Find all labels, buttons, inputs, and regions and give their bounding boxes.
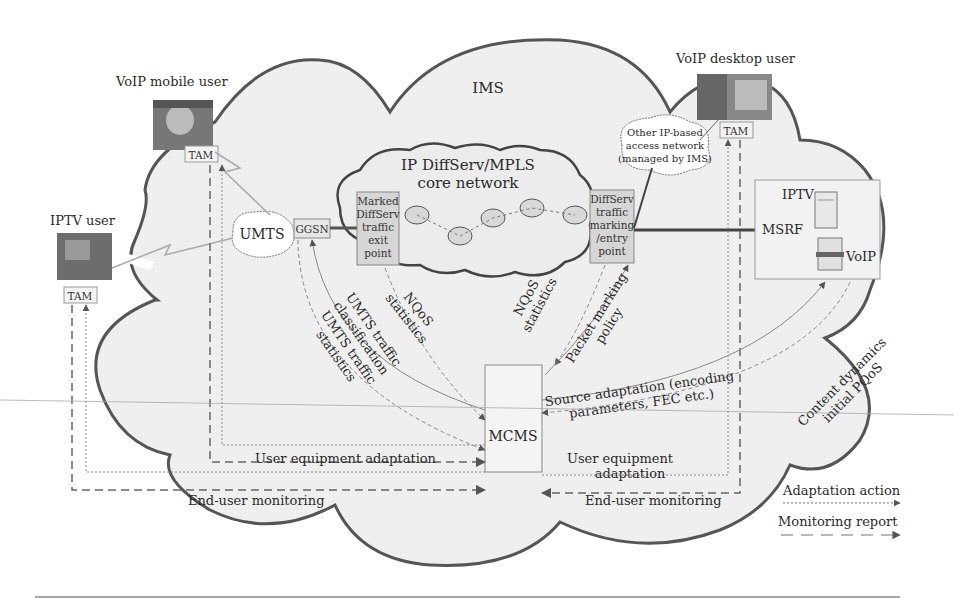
svg-text:Other IP-based: Other IP-based	[627, 127, 703, 138]
eu-monitoring-right: End-user monitoring	[585, 493, 721, 508]
core-network-label-1: IP DiffServ/MPLS	[401, 156, 535, 174]
umts-label: UMTS	[239, 226, 284, 242]
legend-adaptation-action: Adaptation action	[782, 483, 901, 498]
ims-label: IMS	[472, 79, 504, 97]
svg-text:point: point	[598, 245, 626, 257]
svg-text:point: point	[364, 247, 392, 259]
iptv-user-label: IPTV user	[50, 213, 116, 228]
svg-text:exit: exit	[368, 234, 388, 246]
voip-mobile-user-photo	[153, 100, 213, 150]
svg-text:(managed by IMS): (managed by IMS)	[618, 153, 712, 164]
mcms-label: MCMS	[489, 428, 538, 444]
svg-text:traffic: traffic	[596, 206, 628, 218]
svg-text:/entry: /entry	[596, 232, 628, 244]
svg-text:TAM: TAM	[724, 125, 749, 137]
legend-monitoring-report: Monitoring report	[778, 514, 898, 529]
svg-text:traffic: traffic	[362, 221, 394, 233]
svg-text:TAM: TAM	[68, 290, 93, 302]
svg-text:TAM: TAM	[189, 149, 214, 161]
iptv-user-photo	[57, 233, 112, 280]
legend: Adaptation action Monitoring report	[778, 483, 901, 535]
ue-adaptation-right-1: User equipment	[567, 451, 674, 466]
voip-desktop-user-label: VoIP desktop user	[675, 51, 796, 66]
ims-architecture-diagram: IP DiffServ/MPLS core network IMS Other …	[0, 0, 954, 598]
voip-server-icon	[816, 238, 844, 270]
svg-text:access network: access network	[626, 140, 705, 151]
svg-text:marking: marking	[590, 219, 635, 231]
svg-text:DiffServ: DiffServ	[356, 208, 400, 220]
mcms-box	[485, 365, 542, 472]
ue-adaptation-right-2: adaptation	[595, 466, 666, 481]
iptv-server-icon	[815, 192, 837, 228]
eu-monitoring-left: End-user monitoring	[188, 493, 324, 508]
svg-text:IPTV: IPTV	[782, 187, 815, 202]
core-network-label-2: core network	[418, 174, 520, 192]
voip-desktop-user-photo	[697, 74, 772, 120]
svg-text:GGSN: GGSN	[295, 223, 328, 235]
voip-mobile-user-label: VoIP mobile user	[115, 74, 228, 89]
ue-adaptation-left: User equipment adaptation	[255, 451, 437, 466]
svg-text:Marked: Marked	[357, 195, 399, 207]
svg-text:DiffServ: DiffServ	[590, 193, 634, 205]
svg-text:VoIP: VoIP	[845, 249, 876, 264]
msrf-label: MSRF	[762, 222, 803, 237]
